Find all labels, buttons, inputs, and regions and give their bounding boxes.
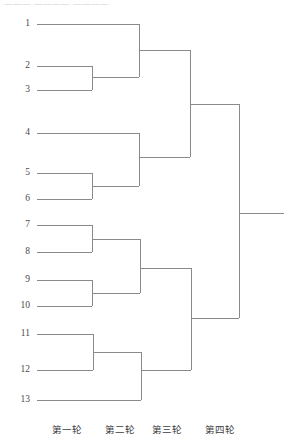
seed-label-13: 13 xyxy=(8,395,30,405)
tournament-bracket-diagram xyxy=(0,0,297,446)
seed-label-8: 8 xyxy=(8,247,30,257)
seed-label-1: 1 xyxy=(8,19,30,29)
round-label-1: 第一轮 xyxy=(52,424,82,435)
round-label-3: 第三轮 xyxy=(152,424,182,435)
round-label-2: 第二轮 xyxy=(105,424,135,435)
seed-label-5: 5 xyxy=(8,168,30,178)
seed-label-4: 4 xyxy=(8,128,30,138)
seed-label-10: 10 xyxy=(8,301,30,311)
seed-label-6: 6 xyxy=(8,194,30,204)
seed-label-7: 7 xyxy=(8,220,30,230)
seed-label-3: 3 xyxy=(8,85,30,95)
seed-label-11: 11 xyxy=(8,329,30,339)
seed-label-2: 2 xyxy=(8,61,30,71)
seed-label-9: 9 xyxy=(8,275,30,285)
seed-label-12: 12 xyxy=(8,365,30,375)
round-label-4: 第四轮 xyxy=(205,424,235,435)
